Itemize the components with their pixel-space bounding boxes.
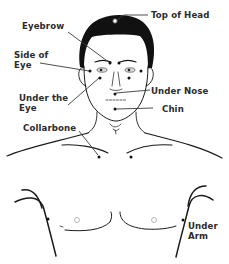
label-under-arm: Under Arm	[188, 221, 218, 241]
label-under-nose: Under Nose	[151, 86, 208, 96]
label-under-the-eye: Under the Eye	[19, 93, 68, 113]
point-collarbone-right	[130, 156, 133, 159]
point-under-arm-left	[47, 218, 50, 221]
right-shoulder	[145, 133, 222, 158]
nose	[110, 72, 122, 91]
throat	[110, 124, 121, 134]
leader-collarbone	[79, 131, 98, 155]
left-pec	[65, 212, 112, 231]
leader-under-the-eye	[68, 78, 99, 105]
point-under-eye-left	[99, 77, 102, 80]
left-collarbone	[62, 145, 108, 153]
point-collarbone-left	[98, 156, 101, 159]
left-shoulder	[7, 133, 88, 156]
right-nipple	[152, 218, 157, 223]
label-collarbone: Collarbone	[23, 123, 76, 133]
point-side-of-eye-right	[140, 70, 143, 73]
label-chin: Chin	[162, 104, 184, 114]
point-eyebrow	[109, 62, 112, 65]
neck	[88, 112, 145, 133]
point-side-of-eye-left	[89, 70, 92, 73]
right-eyebrow	[120, 61, 136, 63]
label-eyebrow: Eyebrow	[22, 21, 64, 31]
leader-chin	[116, 108, 153, 109]
point-top-of-head	[113, 19, 117, 23]
right-collarbone	[127, 145, 172, 153]
left-nipple	[75, 218, 80, 223]
label-top-of-head: Top of Head	[151, 10, 209, 20]
right-pec	[120, 212, 176, 229]
point-under-arm-right	[182, 219, 185, 222]
point-eyebrow-right	[118, 62, 121, 65]
label-side-of-eye: Side of Eye	[14, 50, 48, 70]
point-under-nose	[114, 93, 117, 96]
point-under-eye-right	[128, 77, 131, 80]
tapping-points-diagram: Top of Head Eyebrow Side of Eye Under th…	[0, 0, 229, 264]
left-arm-inner	[15, 198, 56, 256]
point-chin	[114, 108, 117, 111]
